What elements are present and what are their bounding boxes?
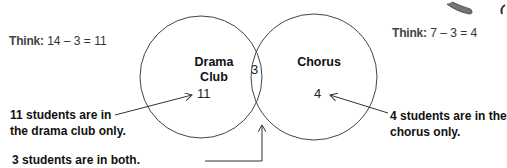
think-right: Think: 7 – 3 = 4 — [392, 26, 477, 40]
overlap-count: 3 — [251, 62, 258, 77]
drama-club-label: Drama Club — [183, 55, 245, 85]
think-right-expression: 7 – 3 = 4 — [430, 26, 477, 40]
drama-only-note-line1: 11 students are in — [10, 107, 126, 123]
chorus-only-count: 4 — [314, 86, 321, 101]
think-left-expression: 14 – 3 = 11 — [47, 34, 107, 48]
chorus-only-arrow — [330, 95, 388, 113]
think-left: Think: 14 – 3 = 11 — [9, 34, 107, 48]
drama-only-note-line2: the drama club only. — [10, 123, 126, 139]
drama-only-note: 11 students are in the drama club only. — [10, 107, 126, 139]
think-left-prefix: Think: — [9, 34, 44, 48]
drama-only-count: 11 — [197, 86, 211, 101]
drama-club-label-line2: Club — [183, 70, 245, 85]
chorus-circle — [251, 14, 377, 140]
chorus-only-note-line2: chorus only. — [390, 124, 507, 140]
drama-only-arrow — [115, 95, 192, 115]
both-note: 3 students are in both. — [12, 152, 140, 168]
think-right-prefix: Think: — [392, 26, 427, 40]
both-arrow — [205, 125, 262, 161]
chorus-label: Chorus — [289, 55, 349, 70]
chorus-only-note: 4 students are in the chorus only. — [390, 108, 507, 140]
decorative-brush-icon — [447, 2, 472, 14]
drama-club-label-line1: Drama — [183, 55, 245, 70]
decorative-curve-icon — [501, 5, 505, 14]
chorus-only-note-line1: 4 students are in the — [390, 108, 507, 124]
